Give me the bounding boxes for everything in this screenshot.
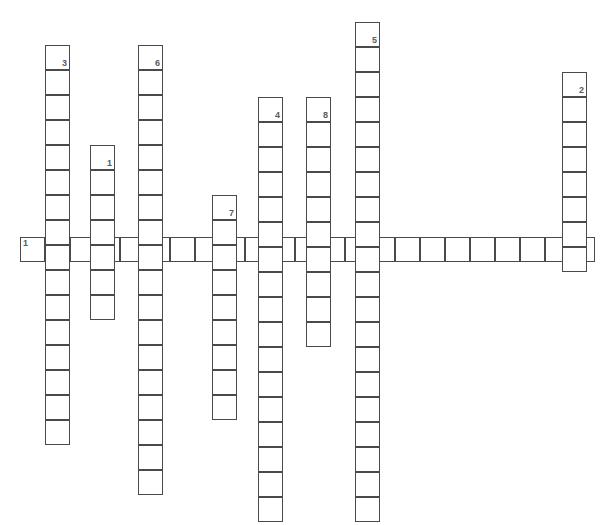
crossword-cell[interactable] <box>45 70 70 95</box>
crossword-cell[interactable] <box>258 322 283 347</box>
crossword-cell[interactable] <box>170 237 195 262</box>
crossword-cell[interactable] <box>45 295 70 320</box>
crossword-cell[interactable] <box>355 272 380 297</box>
crossword-cell[interactable] <box>355 222 380 247</box>
crossword-cell[interactable] <box>45 370 70 395</box>
crossword-cell[interactable] <box>90 195 115 220</box>
crossword-cell[interactable] <box>355 497 380 522</box>
crossword-cell[interactable] <box>355 297 380 322</box>
crossword-cell[interactable] <box>212 320 237 345</box>
crossword-cell[interactable] <box>258 147 283 172</box>
crossword-cell[interactable] <box>212 295 237 320</box>
crossword-cell[interactable] <box>355 472 380 497</box>
crossword-cell[interactable] <box>258 297 283 322</box>
crossword-cell[interactable] <box>258 272 283 297</box>
crossword-cell[interactable] <box>395 237 420 262</box>
crossword-cell[interactable] <box>138 245 163 270</box>
crossword-cell[interactable] <box>562 247 587 272</box>
crossword-cell[interactable] <box>45 95 70 120</box>
crossword-cell[interactable] <box>306 197 331 222</box>
crossword-cell[interactable] <box>306 297 331 322</box>
crossword-cell[interactable] <box>355 172 380 197</box>
crossword-cell[interactable] <box>258 372 283 397</box>
crossword-cell[interactable] <box>258 122 283 147</box>
crossword-cell[interactable] <box>212 220 237 245</box>
crossword-cell[interactable]: 6 <box>138 45 163 70</box>
crossword-cell[interactable] <box>138 270 163 295</box>
crossword-cell[interactable] <box>562 147 587 172</box>
crossword-cell[interactable] <box>138 195 163 220</box>
crossword-cell[interactable] <box>212 270 237 295</box>
crossword-cell[interactable] <box>45 145 70 170</box>
crossword-cell[interactable] <box>90 170 115 195</box>
crossword-cell[interactable]: 3 <box>45 45 70 70</box>
crossword-cell[interactable] <box>562 197 587 222</box>
crossword-cell[interactable] <box>45 320 70 345</box>
crossword-cell[interactable] <box>45 245 70 270</box>
crossword-cell[interactable] <box>562 122 587 147</box>
crossword-cell[interactable] <box>420 237 445 262</box>
crossword-cell[interactable] <box>45 170 70 195</box>
crossword-cell[interactable] <box>90 220 115 245</box>
crossword-cell[interactable] <box>138 370 163 395</box>
crossword-cell[interactable]: 1 <box>90 145 115 170</box>
crossword-cell[interactable] <box>45 270 70 295</box>
crossword-cell[interactable] <box>138 420 163 445</box>
crossword-cell[interactable] <box>306 122 331 147</box>
crossword-cell[interactable] <box>212 245 237 270</box>
crossword-cell[interactable] <box>138 395 163 420</box>
crossword-cell[interactable] <box>355 97 380 122</box>
crossword-cell[interactable] <box>90 245 115 270</box>
crossword-cell[interactable] <box>258 397 283 422</box>
crossword-cell[interactable]: 4 <box>258 97 283 122</box>
crossword-cell[interactable]: 2 <box>562 72 587 97</box>
crossword-cell[interactable] <box>355 147 380 172</box>
crossword-cell[interactable] <box>45 345 70 370</box>
crossword-cell[interactable] <box>138 445 163 470</box>
crossword-cell[interactable] <box>138 120 163 145</box>
crossword-cell[interactable] <box>562 172 587 197</box>
crossword-cell[interactable] <box>45 420 70 445</box>
crossword-cell[interactable] <box>355 422 380 447</box>
crossword-cell[interactable] <box>258 222 283 247</box>
crossword-cell[interactable] <box>138 95 163 120</box>
crossword-cell[interactable] <box>45 195 70 220</box>
crossword-cell[interactable] <box>90 295 115 320</box>
crossword-cell[interactable] <box>258 197 283 222</box>
crossword-cell[interactable] <box>355 322 380 347</box>
crossword-cell[interactable] <box>445 237 470 262</box>
crossword-cell[interactable] <box>138 145 163 170</box>
crossword-cell[interactable] <box>562 97 587 122</box>
crossword-cell[interactable] <box>355 122 380 147</box>
crossword-cell[interactable] <box>258 247 283 272</box>
crossword-cell[interactable] <box>138 220 163 245</box>
crossword-cell[interactable] <box>138 295 163 320</box>
crossword-cell[interactable] <box>306 272 331 297</box>
crossword-cell[interactable] <box>258 347 283 372</box>
crossword-cell[interactable] <box>355 347 380 372</box>
crossword-cell[interactable] <box>258 472 283 497</box>
crossword-cell[interactable] <box>45 395 70 420</box>
crossword-cell[interactable] <box>258 447 283 472</box>
crossword-cell[interactable] <box>355 372 380 397</box>
crossword-cell[interactable] <box>212 370 237 395</box>
crossword-cell[interactable] <box>138 345 163 370</box>
crossword-cell[interactable] <box>45 220 70 245</box>
crossword-cell[interactable] <box>212 395 237 420</box>
crossword-cell[interactable] <box>355 47 380 72</box>
crossword-cell[interactable] <box>138 170 163 195</box>
crossword-cell[interactable] <box>306 172 331 197</box>
crossword-cell[interactable] <box>258 422 283 447</box>
crossword-cell[interactable] <box>306 222 331 247</box>
crossword-cell[interactable] <box>355 72 380 97</box>
crossword-cell[interactable] <box>90 270 115 295</box>
crossword-grid[interactable]: 131674852 <box>0 0 606 525</box>
crossword-cell[interactable] <box>520 237 545 262</box>
crossword-cell[interactable] <box>138 470 163 495</box>
crossword-cell[interactable] <box>355 247 380 272</box>
crossword-cell[interactable]: 1 <box>20 237 45 262</box>
crossword-cell[interactable] <box>258 497 283 522</box>
crossword-cell[interactable] <box>45 120 70 145</box>
crossword-cell[interactable] <box>470 237 495 262</box>
crossword-cell[interactable]: 5 <box>355 22 380 47</box>
